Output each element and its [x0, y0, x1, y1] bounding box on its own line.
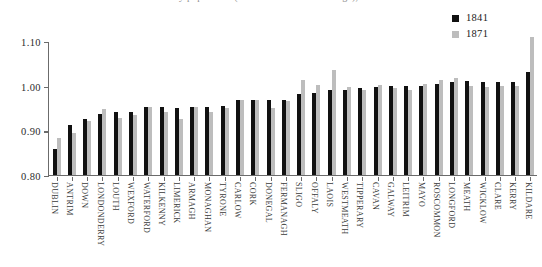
chart-title: Ratio of county population (relative to …	[0, 0, 542, 2]
x-axis-tick	[500, 177, 501, 181]
x-axis-ticks	[49, 177, 538, 181]
x-axis-label: GALWAY	[386, 182, 395, 217]
x-axis-label: LOUTH	[111, 182, 120, 211]
bar-1871	[164, 112, 168, 175]
x-axis-tick	[179, 177, 180, 181]
x-axis-label: ANTRIM	[65, 182, 74, 216]
bar-1871	[209, 112, 213, 175]
x-axis-tick	[194, 177, 195, 181]
bar-group	[294, 42, 309, 175]
bar-1871	[485, 87, 489, 175]
x-axis-labels: DUBLINANTRIMDOWNLONDONDERRYLOUTHWEXFORDW…	[48, 182, 537, 266]
x-axis-label: CAVAN	[371, 182, 380, 210]
x-axis-label: ROSCOMMON	[432, 182, 441, 238]
bar-group	[477, 42, 492, 175]
bar-1871	[408, 90, 412, 175]
bar-1871	[255, 100, 259, 175]
x-axis-tick	[57, 177, 58, 181]
bar-group	[446, 42, 461, 175]
bar-series-group	[49, 42, 537, 175]
bar-group	[171, 42, 186, 175]
x-axis-label: LIMERICK	[172, 182, 181, 223]
bar-group	[431, 42, 446, 175]
x-axis-label: WESTMEATH	[340, 182, 349, 234]
x-axis-label: DOWN	[80, 182, 89, 208]
bar-1871	[179, 119, 183, 175]
bar-group	[370, 42, 385, 175]
x-axis-tick	[454, 177, 455, 181]
bar-group	[64, 42, 79, 175]
x-axis-tick	[423, 177, 424, 181]
bar-group	[110, 42, 125, 175]
bar-group	[507, 42, 522, 175]
x-axis-label: MONAGHAN	[203, 182, 212, 232]
x-axis-tick	[393, 177, 394, 181]
x-axis-tick	[255, 177, 256, 181]
y-axis-tick-label: 0.90	[21, 126, 41, 137]
x-axis-label: CARLOW	[233, 182, 242, 219]
bar-group	[187, 42, 202, 175]
bar-group	[217, 42, 232, 175]
bar-group	[462, 42, 477, 175]
bar-group	[324, 42, 339, 175]
x-axis-tick	[209, 177, 210, 181]
x-axis-label: KILDARE	[524, 182, 533, 220]
bar-1871	[225, 108, 229, 175]
x-axis-label: DUBLIN	[50, 182, 59, 214]
x-axis-label: LONGFORD	[447, 182, 456, 228]
bar-1871	[316, 85, 320, 175]
x-axis-tick	[362, 177, 363, 181]
bar-1871	[72, 133, 76, 175]
bar-1871	[194, 107, 198, 175]
x-axis-tick	[102, 177, 103, 181]
x-axis-tick	[286, 177, 287, 181]
x-axis-label: MAYO	[417, 182, 426, 207]
bar-1871	[347, 87, 351, 175]
x-axis-tick	[439, 177, 440, 181]
x-axis-label: WICKLOW	[478, 182, 487, 224]
bar-1871	[57, 138, 61, 175]
bar-group	[141, 42, 156, 175]
bar-1871	[286, 101, 290, 175]
bar-1871	[378, 85, 382, 175]
chart-legend: 1841 1871	[452, 13, 488, 40]
x-axis-label: LEITRIM	[401, 182, 410, 217]
bar-group	[278, 42, 293, 175]
bar-group	[492, 42, 507, 175]
x-axis-tick	[515, 177, 516, 181]
x-axis-tick	[133, 177, 134, 181]
bar-1871	[301, 80, 305, 175]
legend-item-1841: 1841	[452, 13, 488, 24]
bar-group	[232, 42, 247, 175]
x-axis-label: OFFALY	[310, 182, 319, 214]
x-axis-tick	[87, 177, 88, 181]
legend-label-1871: 1871	[466, 29, 488, 40]
bar-group	[95, 42, 110, 175]
bar-1871	[102, 109, 106, 175]
x-axis-tick	[301, 177, 302, 181]
bar-group	[416, 42, 431, 175]
x-axis-label: MEATH	[462, 182, 471, 211]
x-axis-label: KILKENNY	[157, 182, 166, 226]
x-axis-label: KERRY	[508, 182, 517, 210]
bar-group	[156, 42, 171, 175]
x-axis-tick	[469, 177, 470, 181]
bar-1871	[530, 37, 534, 175]
bar-group	[263, 42, 278, 175]
x-axis-tick	[408, 177, 409, 181]
x-axis-tick	[332, 177, 333, 181]
bar-1871	[362, 90, 366, 175]
legend-item-1871: 1871	[452, 29, 488, 40]
y-axis-tick-label: 1.00	[21, 81, 41, 92]
legend-label-1841: 1841	[466, 13, 488, 24]
y-axis-tick-label: 1.10	[21, 37, 41, 48]
bar-group	[400, 42, 415, 175]
bar-group	[355, 42, 370, 175]
bar-group	[80, 42, 95, 175]
bar-1871	[515, 86, 519, 175]
x-axis-label: TYRONE	[218, 182, 227, 217]
bar-group	[248, 42, 263, 175]
x-axis-label: WATERFORD	[142, 182, 151, 233]
x-axis-tick	[164, 177, 165, 181]
x-axis-tick	[316, 177, 317, 181]
